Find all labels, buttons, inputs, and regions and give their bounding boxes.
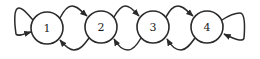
node-4: 4 [191, 11, 223, 43]
node-2: 2 [85, 11, 117, 43]
edge-4-to-3 [167, 38, 195, 50]
edge-2-to-1 [60, 38, 89, 50]
edge-1-to-1-self-loop [15, 8, 33, 35]
edge-2-to-3 [114, 6, 139, 17]
node-1: 1 [31, 12, 63, 44]
node-1-label: 1 [44, 22, 51, 35]
edge-4-to-4-self-loop [222, 13, 245, 40]
node-2-label: 2 [98, 21, 105, 34]
edge-3-to-2 [114, 38, 141, 50]
node-3-label: 3 [150, 21, 157, 34]
edge-3-to-4 [166, 6, 193, 17]
node-4-label: 4 [204, 21, 211, 34]
node-3: 3 [137, 11, 169, 43]
edge-1-to-2 [60, 6, 87, 18]
state-diagram: 1 2 3 4 [0, 0, 260, 59]
